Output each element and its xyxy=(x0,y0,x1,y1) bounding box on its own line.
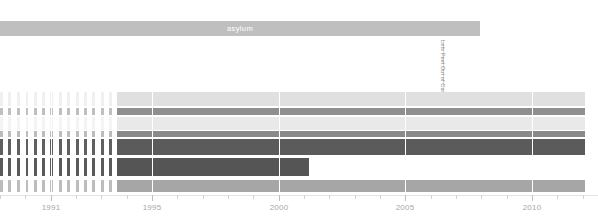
x-axis-tick-minor xyxy=(355,195,356,199)
x-axis-tick-minor xyxy=(456,195,457,199)
x-axis-tick-minor xyxy=(507,195,508,199)
x-axis-tick-minor xyxy=(101,195,102,199)
plot-area xyxy=(0,92,598,195)
x-axis-tick-minor xyxy=(583,195,584,199)
timeline-chart: asylum Lets Peel Out of Cairo 1991199520… xyxy=(0,0,598,223)
gridline xyxy=(25,92,26,195)
x-axis-tick-minor xyxy=(380,195,381,199)
timeline-band-sparse[interactable] xyxy=(0,92,117,106)
timeline-band[interactable] xyxy=(117,131,586,137)
x-axis-tick-label: 1995 xyxy=(143,203,162,212)
x-axis-tick-major xyxy=(279,195,280,201)
x-axis-tick-label: 1991 xyxy=(42,203,61,212)
x-axis-tick-minor xyxy=(76,195,77,199)
timeline-band[interactable] xyxy=(117,180,586,192)
x-axis-tick-major xyxy=(152,195,153,201)
timeline-band-sparse[interactable] xyxy=(0,139,117,155)
x-axis-tick-label: 2000 xyxy=(270,203,289,212)
gridline xyxy=(405,92,406,195)
x-axis-tick-minor xyxy=(557,195,558,199)
timeline-band[interactable] xyxy=(117,117,586,130)
x-axis: 19911995200020052010 xyxy=(0,195,598,223)
timeline-band[interactable] xyxy=(117,139,586,155)
annotation-lets-peel-out-of-cairo: Lets Peel Out of Cairo xyxy=(438,40,448,92)
x-axis-tick-minor xyxy=(0,195,1,199)
x-axis-tick-minor xyxy=(253,195,254,199)
gridline xyxy=(532,92,533,195)
x-axis-tick-minor xyxy=(25,195,26,199)
x-axis-tick-minor xyxy=(481,195,482,199)
timeline-band[interactable] xyxy=(117,92,586,106)
timeline-band[interactable] xyxy=(117,158,310,176)
timeline-band-sparse[interactable] xyxy=(0,158,117,176)
timeline-band[interactable] xyxy=(117,108,586,115)
x-axis-rule xyxy=(0,195,598,196)
x-axis-tick-label: 2005 xyxy=(396,203,415,212)
asylum-category-bar[interactable]: asylum xyxy=(0,21,480,36)
x-axis-tick-major xyxy=(405,195,406,201)
x-axis-tick-label: 2010 xyxy=(523,203,542,212)
x-axis-tick-major xyxy=(51,195,52,201)
x-axis-tick-minor xyxy=(203,195,204,199)
timeline-band-sparse[interactable] xyxy=(0,108,117,115)
timeline-band-sparse[interactable] xyxy=(0,131,117,137)
x-axis-tick-minor xyxy=(177,195,178,199)
x-axis-tick-minor xyxy=(304,195,305,199)
x-axis-tick-minor xyxy=(127,195,128,199)
asylum-category-label: asylum xyxy=(0,21,480,36)
x-axis-tick-minor xyxy=(329,195,330,199)
x-axis-tick-minor xyxy=(431,195,432,199)
gridline xyxy=(279,92,280,195)
timeline-band-sparse[interactable] xyxy=(0,117,117,130)
gridline xyxy=(152,92,153,195)
timeline-band-sparse[interactable] xyxy=(0,180,117,192)
gridline xyxy=(51,92,52,195)
x-axis-tick-minor xyxy=(228,195,229,199)
x-axis-tick-major xyxy=(532,195,533,201)
